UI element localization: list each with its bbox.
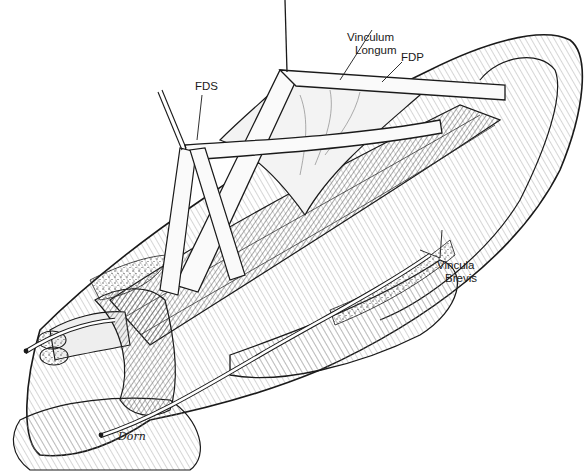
vinculum-longum-label: Vinculum Longum: [347, 31, 397, 57]
fdp-label: FDP: [401, 51, 424, 64]
fds-label: FDS: [195, 80, 218, 93]
anatomical-illustration: Vinculum Longum FDP FDS Vincula Brevis D…: [0, 0, 588, 473]
finger-tendon-drawing: [0, 0, 588, 473]
artist-signature: Dorn: [118, 430, 146, 443]
vinculum-longum-label-line1: Vinculum: [347, 31, 397, 44]
vincula-brevis-label-line2: Brevis: [437, 272, 477, 285]
vinculum-longum-label-line2: Longum: [347, 44, 397, 57]
vincula-brevis-label-line1: Vincula: [437, 259, 477, 272]
vincula-brevis-label: Vincula Brevis: [437, 259, 477, 285]
